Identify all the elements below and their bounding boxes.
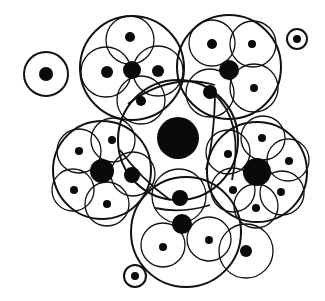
petal-dot: [285, 157, 293, 165]
central-dot: [157, 117, 199, 159]
petal-dot: [248, 40, 256, 48]
petal-dot: [125, 32, 135, 42]
petal-dot: [205, 236, 213, 244]
petal-dot: [70, 186, 78, 194]
petal-dot: [152, 65, 164, 77]
single-dot-lone-left: [39, 67, 53, 81]
single-dot-lone-bottom: [131, 272, 139, 280]
cluster-core-dot-right: [243, 158, 271, 186]
petal-dot: [75, 147, 83, 155]
petal-dot: [108, 136, 116, 144]
petal-dot: [240, 245, 252, 257]
petal-dot: [258, 134, 266, 142]
petal-dot: [224, 150, 232, 158]
petal-dot: [277, 188, 285, 196]
petal-dot: [203, 85, 217, 99]
petal-dot: [136, 96, 146, 106]
petal-dot: [207, 39, 217, 49]
cluster-core-dot-top-left: [123, 61, 141, 79]
petal-dot: [172, 190, 188, 206]
petal-dot: [229, 186, 237, 194]
petal-dot: [103, 200, 111, 208]
cluster-core-dot-left: [90, 159, 114, 183]
petal-dot: [124, 167, 140, 183]
petal-dot: [101, 66, 113, 78]
cluster-core-dot-bottom: [172, 214, 192, 234]
petal-dot: [250, 84, 258, 92]
diagram-canvas: [0, 0, 325, 301]
circle-cluster-diagram: [0, 0, 325, 301]
petal-dot: [252, 204, 260, 212]
petal-dot: [159, 243, 167, 251]
single-dot-lone-top-right: [293, 35, 301, 43]
cluster-core-dot-top-right: [219, 60, 239, 80]
